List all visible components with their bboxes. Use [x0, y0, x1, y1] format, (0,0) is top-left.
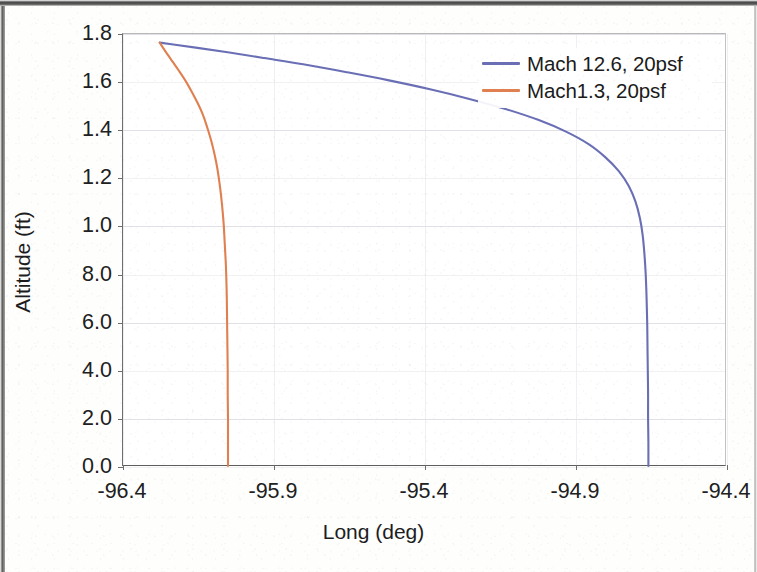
legend-swatch-icon [482, 89, 520, 92]
x-tick-label: -94.9 [550, 479, 599, 504]
legend: Mach 12.6, 20psf Mach1.3, 20psf [478, 48, 712, 108]
x-tick-label: -95.4 [399, 479, 448, 504]
legend-label: Mach 12.6, 20psf [527, 52, 683, 76]
chart-figure: 0.02.04.06.08.01.01.21.41.61.8 -96.4-95.… [0, 0, 757, 572]
scanned-figure-page: 0.02.04.06.08.01.01.21.41.61.8 -96.4-95.… [0, 0, 757, 572]
x-axis-title-text: Long (deg) [323, 520, 425, 544]
legend-label: Mach1.3, 20psf [527, 79, 666, 103]
scan-border-left [0, 6, 5, 572]
x-tick-label: -94.4 [701, 479, 750, 504]
legend-item: Mach 12.6, 20psf [482, 50, 708, 77]
x-tick-label: -95.9 [248, 479, 297, 504]
legend-swatch-icon [482, 62, 520, 65]
x-tick-label: -96.4 [97, 479, 146, 504]
x-axis-title: Long (deg) [0, 520, 757, 544]
legend-item: Mach1.3, 20psf [482, 77, 708, 104]
scan-border-top [0, 0, 757, 6]
y-axis-title: Altitude (ft) [11, 132, 35, 392]
